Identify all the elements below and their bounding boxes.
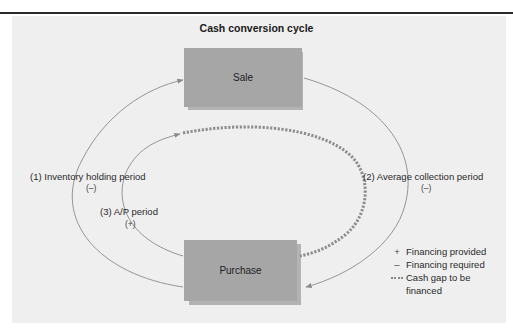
collection-period-label: (2) Average collection period bbox=[363, 171, 483, 182]
collection-period-sign: (–) bbox=[421, 183, 431, 193]
legend: + Financing provided – Financing require… bbox=[388, 245, 486, 297]
legend-item-financing-provided: + Financing provided bbox=[388, 245, 486, 258]
legend-item-cash-gap-cont: financed bbox=[388, 284, 486, 297]
cash-gap-arc bbox=[183, 127, 365, 256]
plus-icon: + bbox=[388, 245, 406, 258]
diagram-title: Cash conversion cycle bbox=[0, 22, 513, 34]
inventory-period-sign: (–) bbox=[86, 183, 96, 193]
legend-item-cash-gap: Cash gap to be bbox=[388, 271, 486, 284]
ap-arc bbox=[122, 134, 183, 256]
minus-icon: – bbox=[388, 258, 406, 271]
ap-period-label: (3) A/P period bbox=[100, 206, 158, 217]
sale-label: Sale bbox=[184, 72, 302, 83]
legend-item-financing-required: – Financing required bbox=[388, 258, 486, 271]
dashed-line-icon bbox=[388, 271, 406, 284]
purchase-label: Purchase bbox=[184, 265, 297, 276]
ap-period-sign: (+) bbox=[125, 219, 136, 229]
inventory-period-label: (1) Inventory holding period bbox=[30, 171, 146, 182]
